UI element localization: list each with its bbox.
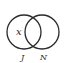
venn-diagram: x J N <box>0 0 67 63</box>
region-j-only-label: x <box>16 26 22 37</box>
set-j-circle <box>7 15 41 49</box>
set-n-circle <box>25 15 59 49</box>
set-j-label: J <box>19 53 25 62</box>
set-n-label: N <box>39 53 48 62</box>
